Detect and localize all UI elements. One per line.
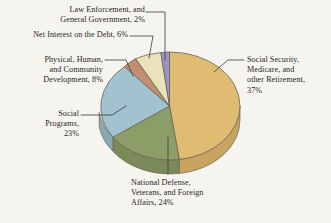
slice-label-national-defense: National Defense, Veterans, and Foreign … bbox=[131, 178, 259, 209]
pie-top-face bbox=[101, 52, 240, 160]
pie-chart-figure: Law Enforcement, and General Government,… bbox=[0, 0, 331, 223]
slice-label-net-interest: Net Interest on the Debt, 6% bbox=[0, 30, 128, 40]
slice-label-law-enforcement: Law Enforcement, and General Government,… bbox=[15, 5, 145, 25]
slice-label-social-programs: Social Programs, 23% bbox=[7, 109, 79, 140]
slice-label-social-security: Social Security, Medicare, and other Ret… bbox=[247, 55, 331, 96]
slice-label-physical-human: Physical, Human, and Community Developme… bbox=[3, 55, 103, 86]
leader-line-net-interest bbox=[130, 36, 153, 58]
